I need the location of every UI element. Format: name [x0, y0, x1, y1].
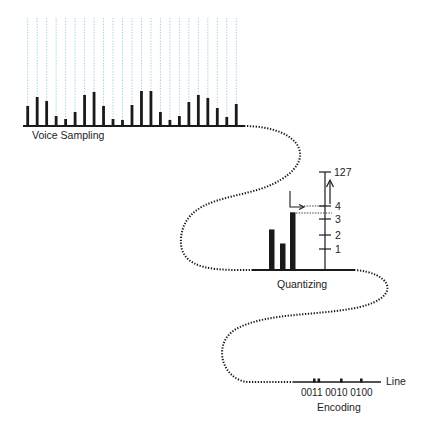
sample-bars — [26, 91, 237, 126]
pulse — [360, 379, 363, 383]
quantized-bar — [269, 229, 275, 270]
sample-bar — [131, 105, 134, 126]
sample-bar — [45, 101, 48, 126]
sample-bar — [83, 95, 86, 126]
sample-bar — [140, 91, 143, 126]
voice-sampling-label: Voice Sampling — [32, 129, 105, 141]
sampling-grid-lines — [28, 18, 237, 120]
sample-bar — [187, 102, 190, 126]
sample-bar — [26, 106, 29, 126]
encoding-label: Encoding — [317, 401, 361, 413]
sample-bar — [55, 116, 58, 126]
pulse — [313, 379, 316, 383]
scale-tick-label: 3 — [335, 213, 341, 225]
sample-bar — [74, 112, 77, 126]
sample-bar — [178, 116, 181, 126]
quantized-bars — [269, 212, 296, 270]
quantized-bar — [290, 212, 296, 270]
line-label: Line — [386, 375, 406, 387]
sample-bar — [206, 98, 209, 126]
bent-arrow — [290, 191, 303, 207]
sample-bar — [93, 92, 96, 126]
scale-tick-label: 2 — [335, 229, 341, 241]
quantizing-label: Quantizing — [277, 278, 327, 290]
scale-max-label: 127 — [334, 166, 352, 178]
scale-tick-label: 1 — [335, 243, 341, 255]
sample-bar — [102, 106, 105, 126]
scale-ticks: 1234 — [319, 200, 341, 255]
scale-tick-label: 4 — [335, 200, 341, 212]
quantized-bar — [280, 243, 286, 270]
encoding-codes: 0011 0010 0100 — [301, 387, 373, 398]
sample-bar — [235, 104, 238, 126]
sample-bar — [159, 112, 162, 126]
pcm-diagram: Voice Sampling 127 1234 Quantizing Line … — [0, 0, 429, 442]
sample-bar — [36, 97, 39, 126]
sample-bar — [197, 95, 200, 126]
pulse — [340, 379, 343, 383]
pulse — [318, 379, 321, 383]
sample-bar — [225, 117, 228, 126]
sample-bar — [150, 91, 153, 126]
sample-bar — [216, 108, 219, 126]
